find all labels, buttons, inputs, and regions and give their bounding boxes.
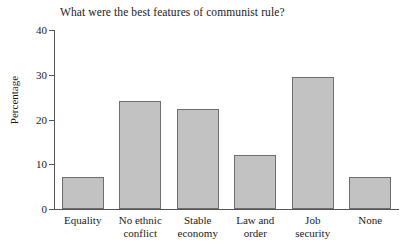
x-category-label-2: Stable economy — [169, 214, 227, 239]
y-tick-mark — [49, 120, 54, 121]
x-category-label-3: Law and order — [227, 214, 285, 239]
bar-4 — [292, 77, 334, 209]
chart-title: What were the best features of communist… — [60, 6, 390, 19]
y-tick-label: 0 — [42, 204, 48, 215]
y-tick-mark — [49, 30, 54, 31]
y-axis-line — [54, 30, 55, 210]
y-tick-label: 10 — [36, 159, 47, 170]
y-axis-label: Percentage — [8, 65, 20, 135]
bar-0 — [62, 177, 104, 209]
x-category-label-5: None — [342, 214, 400, 227]
x-category-label-1: No ethnic conflict — [112, 214, 170, 239]
y-tick-label: 40 — [36, 25, 47, 36]
y-tick-mark — [49, 209, 54, 210]
bar-2 — [177, 109, 219, 209]
y-tick-mark — [49, 164, 54, 165]
y-tick-label: 30 — [36, 69, 47, 80]
y-tick-mark — [49, 75, 54, 76]
bar-3 — [234, 155, 276, 209]
bar-5 — [349, 177, 391, 209]
plot-area: 0 10 20 30 40 Equality No ethnic conflic… — [54, 30, 399, 210]
y-tick-label: 20 — [36, 114, 47, 125]
x-axis-line — [54, 209, 399, 210]
x-category-label-0: Equality — [54, 214, 112, 227]
bar-1 — [119, 101, 161, 209]
x-category-label-4: Job security — [284, 214, 342, 239]
bar-chart-figure: What were the best features of communist… — [0, 0, 413, 247]
